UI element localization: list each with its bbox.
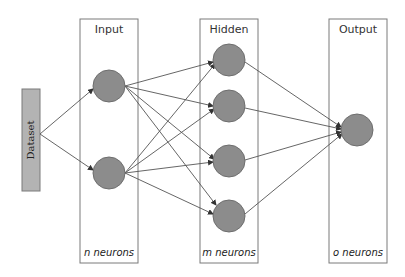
hidden-layer-count: m neurons xyxy=(202,247,256,258)
output-layer-title: Output xyxy=(339,23,378,36)
edge xyxy=(245,132,341,160)
dataset-label: Dataset xyxy=(25,120,36,159)
output-neurons xyxy=(341,114,373,146)
edge xyxy=(245,108,341,129)
input-neuron xyxy=(93,157,125,189)
output-neuron xyxy=(341,114,373,146)
neural-network-diagram: Input n neurons Hidden m neurons Output … xyxy=(0,0,405,277)
edge xyxy=(245,62,341,127)
input-layer-count: n neurons xyxy=(84,247,134,258)
output-layer-count: o neurons xyxy=(333,247,383,258)
hidden-neuron xyxy=(213,145,245,177)
edges-hidden-output xyxy=(245,62,342,214)
input-neuron xyxy=(93,70,125,102)
input-layer: Input n neurons xyxy=(80,19,138,263)
hidden-neuron xyxy=(213,200,245,232)
hidden-neuron xyxy=(213,44,245,76)
input-layer-box xyxy=(80,19,138,263)
hidden-layer-title: Hidden xyxy=(209,23,248,36)
input-layer-title: Input xyxy=(95,23,124,36)
dataset-node: Dataset xyxy=(22,89,40,191)
hidden-neuron xyxy=(213,90,245,122)
